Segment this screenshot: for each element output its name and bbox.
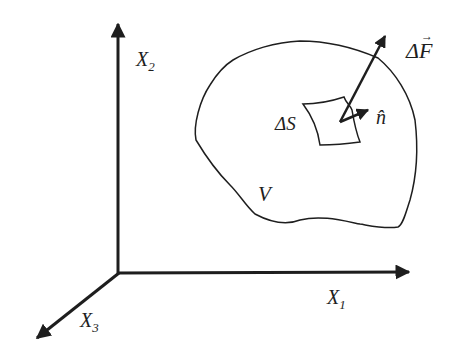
- body-outline: [195, 41, 416, 228]
- x1-axis: [118, 272, 409, 273]
- x3-axis: [37, 273, 119, 338]
- diagram-canvas: X2 X1 X3 V ΔS n̂ ΔF →: [0, 0, 461, 357]
- x2-label: X2: [135, 48, 155, 74]
- normal-label: n̂: [376, 106, 386, 128]
- x3-label: X3: [79, 309, 99, 335]
- coordinate-axes: [37, 24, 409, 338]
- body-label: V: [258, 182, 273, 206]
- x1-label: X1: [326, 286, 346, 312]
- surface-label: ΔS: [274, 113, 296, 134]
- surface-element: [303, 97, 360, 145]
- force-vector-mark: →: [421, 29, 433, 43]
